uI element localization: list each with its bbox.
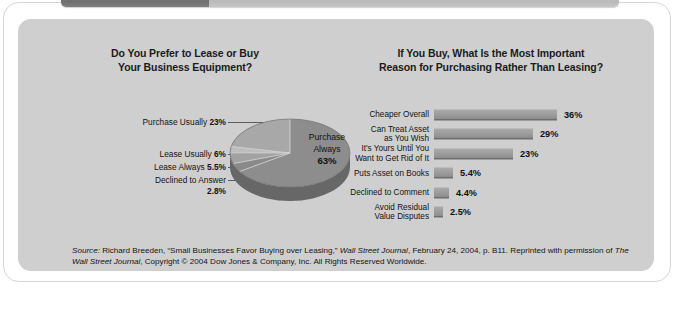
pie-chart-title-line1: Do You Prefer to Lease or Buy (32, 47, 338, 61)
bar-row: Cheaper Overall 36% (348, 105, 648, 125)
bar-declined-to-comment (434, 187, 449, 198)
bar-cheaper-overall (434, 109, 557, 120)
pie-chart: Purchase Usually 23% Lease Usually 6% Le… (108, 103, 353, 218)
source-part2: , February 24, 2004, p. B11. Reprinted w… (408, 246, 615, 255)
bar-puts-asset-on-books (434, 168, 453, 179)
bar-track: 2.5% (434, 203, 648, 223)
bar-chart: Cheaper Overall 36% Can Treat Asset as Y… (348, 105, 648, 225)
pie-label-purchase-usually: Purchase Usually 23% (143, 117, 226, 127)
source-publication1: Wall Street Journal (340, 246, 408, 255)
bar-track: 23% (434, 144, 648, 164)
bar-row: Puts Asset on Books 5.4% (348, 164, 648, 184)
bar-row: It's Yours Until You Want to Get Rid of … (348, 144, 648, 164)
bar-value-its-yours-until-you-want-to-get-rid-of-it: 23% (520, 149, 538, 159)
bar-label-declined-to-comment: Declined to Comment (348, 188, 434, 198)
figure-panel: Do You Prefer to Lease or Buy Your Busin… (18, 19, 654, 271)
chart-titles: Do You Prefer to Lease or Buy Your Busin… (18, 47, 654, 74)
bar-chart-title: If You Buy, What Is the Most Important R… (338, 47, 644, 74)
source-part1: Richard Breeden, “Small Businesses Favor… (100, 246, 340, 255)
pie-label-declined-to-answer-value: 2.8% (207, 186, 226, 196)
pie-label-declined-to-answer: Declined to Answer (155, 175, 226, 185)
bar-track: 29% (434, 125, 648, 145)
pie-label-lease-usually: Lease Usually 6% (160, 149, 226, 159)
bar-label-puts-asset-on-books: Puts Asset on Books (348, 169, 434, 179)
pie-chart-title-line2: Your Business Equipment? (32, 61, 338, 75)
bar-track: 5.4% (434, 164, 648, 184)
bar-chart-title-line1: If You Buy, What Is the Most Important (338, 47, 644, 61)
top-header-dark-segment (61, 0, 209, 7)
bar-label-avoid-residual-value-disputes: Avoid Residual Value Disputes (348, 203, 434, 222)
source-part3: , Copyright © 2004 Dow Jones & Company, … (140, 257, 426, 266)
pie-chart-title: Do You Prefer to Lease or Buy Your Busin… (32, 47, 338, 74)
figure-screenshot: the purchase price business equipment le… (0, 0, 678, 312)
bar-track: 4.4% (434, 183, 648, 203)
top-header-bar (61, 0, 619, 7)
source-label: Source: (72, 246, 100, 255)
bar-chart-title-line2: Reason for Purchasing Rather Than Leasin… (338, 61, 644, 75)
bar-value-puts-asset-on-books: 5.4% (460, 168, 481, 178)
top-header-light-segment (209, 0, 619, 7)
bar-value-declined-to-comment: 4.4% (456, 188, 477, 198)
bar-row: Declined to Comment 4.4% (348, 183, 648, 203)
bar-value-cheaper-overall: 36% (564, 110, 582, 120)
bar-its-yours-until-you-want-to-get-rid-of-it (434, 148, 513, 159)
bar-avoid-residual-value-disputes (434, 207, 443, 218)
bar-row: Avoid Residual Value Disputes 2.5% (348, 203, 648, 223)
bar-value-can-treat-asset-as-you-wish: 29% (540, 129, 558, 139)
bar-can-treat-asset-as-you-wish (434, 129, 533, 140)
bar-label-cheaper-overall: Cheaper Overall (348, 110, 434, 120)
bar-label-can-treat-asset-as-you-wish: Can Treat Asset as You Wish (348, 125, 434, 144)
bar-label-its-yours-until-you-want-to-get-rid-of-it: It's Yours Until You Want to Get Rid of … (348, 144, 434, 163)
bar-row: Can Treat Asset as You Wish 29% (348, 125, 648, 145)
pie-outside-labels: Purchase Usually 23% Lease Usually 6% Le… (108, 103, 226, 218)
pie-label-lease-always: Lease Always 5.5% (154, 162, 226, 172)
pie-center-label-value: 63% (317, 155, 336, 166)
source-note: Source: Richard Breeden, “Small Business… (72, 245, 632, 268)
bar-track: 36% (434, 105, 648, 125)
bar-value-avoid-residual-value-disputes: 2.5% (450, 207, 471, 217)
